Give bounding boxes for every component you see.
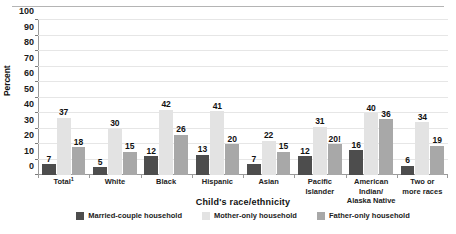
y-axis-tick-label: 20 [24,131,34,140]
bar-value-label: 19 [432,136,441,145]
x-axis-tick-label: Two ormore races [397,177,448,199]
bar-slot: 18 [72,20,86,175]
bar-slot: 5 [93,20,107,175]
bar-group: 124226 [141,20,192,175]
bar-group-bars: 63419 [397,20,448,175]
bar[interactable] [298,156,312,175]
bar[interactable] [313,127,327,175]
bar-value-label: 15 [279,142,288,151]
bar-value-label: 7 [251,155,256,164]
bar-group: 72215 [243,20,294,175]
bar-slot: 20! [328,20,342,175]
bar[interactable] [379,119,393,175]
bar-slot: 12 [144,20,158,175]
bar-slot: 7 [247,20,261,175]
bar-value-label: 18 [74,138,83,147]
y-axis-tick-label: 40 [24,100,34,109]
bar[interactable] [196,155,210,175]
bar-value-label: 20 [227,135,236,144]
top-divider [12,6,444,7]
bar[interactable] [123,152,137,175]
bar[interactable] [415,122,429,175]
bar-group-bars: 134120 [192,20,243,175]
bar-slot: 15 [277,20,291,175]
bar[interactable] [349,150,363,175]
bar[interactable] [430,146,444,175]
bar[interactable] [72,147,86,175]
bar-groups: 737185301512422613412072215123120!164036… [38,20,448,175]
bar-group-bars: 124226 [141,20,192,175]
bar[interactable] [262,141,276,175]
bar-slot: 22 [262,20,276,175]
bar-value-label: 37 [59,108,68,117]
legend-label: Mother-only household [214,212,297,220]
bar-group-bars: 73718 [38,20,89,175]
x-axis-title: Child's race/ethnicity [38,197,448,207]
x-axis-tick-label: American Indian/Alaska Native [346,177,397,199]
bar[interactable] [108,129,122,176]
legend-label: Married-couple household [88,212,182,220]
bar-group: 53015 [89,20,140,175]
bar-slot: 15 [123,20,137,175]
bar-value-label: 34 [418,113,427,122]
legend-item[interactable]: Mother-only household [202,212,297,220]
bar-slot: 36 [379,20,393,175]
y-axis-tick-label: 80 [24,38,34,47]
y-axis-tick-label: 70 [24,53,34,62]
bar-slot: 16 [349,20,363,175]
bar[interactable] [57,118,71,175]
y-axis-title: Percent [2,66,12,96]
bar[interactable] [144,156,158,175]
bar-value-label: 40 [366,104,375,113]
bar-group-bars: 164036 [346,20,397,175]
bar-value-label: 12 [147,147,156,156]
bar-slot: 7 [42,20,56,175]
legend-label: Father-only household [329,212,410,220]
y-axis-tick-label: 50 [24,84,34,93]
bar-value-label: 5 [98,158,103,167]
bar-value-label: 13 [198,145,207,154]
bar-slot: 34 [415,20,429,175]
bar-value-label: 42 [161,100,170,109]
bar-slot: 37 [57,20,71,175]
bar-value-label: 15 [125,142,134,151]
bar[interactable] [42,164,56,175]
bar-group: 63419 [397,20,448,175]
bar[interactable] [247,164,261,175]
bar-value-label: 12 [300,147,309,156]
bar-group-bars: 123120! [294,20,345,175]
legend-item[interactable]: Married-couple household [76,212,182,220]
y-axis-tick-label: 90 [24,22,34,31]
bar[interactable] [225,144,239,175]
bar-slot: 40 [364,20,378,175]
footnote-marker: 1 [71,176,74,182]
y-axis-tick-label: 100 [19,7,34,16]
bar-group: 164036 [346,20,397,175]
bar-value-label: 26 [176,125,185,134]
bar-value-label: 22 [264,131,273,140]
bar-group: 73718 [38,20,89,175]
legend-item[interactable]: Father-only household [317,212,410,220]
bar-value-label: 41 [213,102,222,111]
chart-legend: Married-couple householdMother-only hous… [38,212,448,220]
bar[interactable] [277,152,291,175]
bar-value-label: 20! [329,135,341,144]
bar[interactable] [174,135,188,175]
bar[interactable] [401,166,415,175]
bar-group: 134120 [192,20,243,175]
bar[interactable] [93,167,107,175]
bar-group-bars: 72215 [243,20,294,175]
bar[interactable] [328,144,342,175]
bar[interactable] [364,113,378,175]
legend-swatch [76,212,84,220]
bar-slot: 13 [196,20,210,175]
bar[interactable] [159,110,173,175]
bar-slot: 30 [108,20,122,175]
bar[interactable] [210,111,224,175]
y-axis-tick-label: 10 [24,146,34,155]
y-axis-tick-label: 60 [24,69,34,78]
x-axis-tick-label: Hispanic [192,177,243,199]
bar-slot: 42 [159,20,173,175]
chart-figure: Percent 0102030405060708090100 737185301… [0,0,456,234]
x-axis-tick-label: Black [141,177,192,199]
